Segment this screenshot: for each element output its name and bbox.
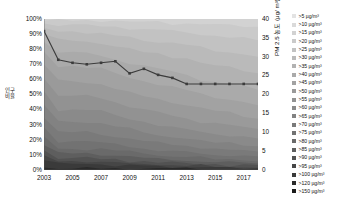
legend-swatch-icon [292,73,296,77]
legend-swatch-icon [292,14,296,18]
legend-item[interactable]: >40 µg/m³ [292,70,341,78]
y-tick-label-left: 80% [29,46,42,52]
legend-swatch-icon [292,148,296,152]
legend-swatch-icon [292,48,296,52]
legend-swatch-icon [292,64,296,68]
legend-item-label: >5 µg/m³ [299,14,319,19]
x-tick-label: 2009 [122,174,136,181]
x-tick-label: 2011 [151,174,165,181]
legend-item[interactable]: >10 µg/m³ [292,20,341,28]
y-tick-label-left: 60% [29,76,42,82]
legend-swatch-icon [292,81,296,85]
legend-swatch-icon [292,31,296,35]
legend-item[interactable]: >30 µg/m³ [292,54,341,62]
legend-item-label: >70 µg/m³ [299,122,322,127]
legend-swatch-icon [292,23,296,27]
legend-item-label: >50 µg/m³ [299,89,322,94]
y-tick-label-right: 20 [262,91,269,97]
legend-swatch-icon [292,123,296,127]
y-tick-label-right: 10 [262,129,269,135]
pm25-trend-marker [185,83,188,86]
legend-item[interactable]: >55 µg/m³ [292,95,341,103]
legend-item[interactable]: >50 µg/m³ [292,87,341,95]
legend-item-label: >120 µg/m³ [299,181,325,186]
legend-item[interactable]: >5 µg/m³ [292,12,341,20]
legend-item-label: >60 µg/m³ [299,105,322,110]
x-axis: 20032005200720092011201320152017 [44,174,258,190]
y-tick-label-left: 70% [29,61,42,67]
legend-item[interactable]: >15 µg/m³ [292,29,341,37]
y-tick-label-left: 50% [29,91,42,97]
legend-item-label: >85 µg/m³ [299,147,322,152]
plot-area [44,19,258,170]
y-tick-label-left: 0% [33,167,42,173]
legend-item[interactable]: >25 µg/m³ [292,45,341,53]
y-tick-label-right: 25 [262,72,269,78]
legend-swatch-icon [292,139,296,143]
legend-swatch-icon [292,181,296,185]
x-tick-label: 2017 [237,174,251,181]
legend-swatch-icon [292,56,296,60]
y-tick-label-left: 40% [29,106,42,112]
y-tick-label-right: 40 [262,16,269,22]
legend-item-label: >90 µg/m³ [299,155,322,160]
legend-swatch-icon [292,114,296,118]
y-tick-label-left: 90% [29,31,42,37]
legend-item[interactable]: >35 µg/m³ [292,62,341,70]
pm25-trend-marker [128,72,131,75]
x-tick-label: 2013 [180,174,194,181]
pm25-trend-marker [171,77,174,80]
y-axis-right-title: PM 2.5 농도 (μg/ m³) [272,0,281,56]
legend-swatch-icon [292,89,296,93]
legend-item[interactable]: >60 µg/m³ [292,104,341,112]
y-tick-label-left: 100% [26,16,42,22]
legend-item[interactable]: >95 µg/m³ [292,162,341,170]
legend-item[interactable]: >120 µg/m³ [292,179,341,187]
legend-swatch-icon [292,39,296,43]
legend-item[interactable]: >80 µg/m³ [292,137,341,145]
x-tick-label: 2003 [37,174,51,181]
legend-item-label: >65 µg/m³ [299,114,322,119]
legend-swatch-icon [292,173,296,177]
legend-item[interactable]: >70 µg/m³ [292,120,341,128]
legend-item-label: >35 µg/m³ [299,64,322,69]
legend-swatch-icon [292,156,296,160]
legend-item-label: >30 µg/m³ [299,55,322,60]
legend-item[interactable]: >85 µg/m³ [292,146,341,154]
pm25-trend-marker [157,74,160,77]
legend-item-label: >75 µg/m³ [299,130,322,135]
pm25-trend-marker [100,61,103,64]
legend-item[interactable]: >150 µg/m³ [292,187,341,195]
legend-item-label: >80 µg/m³ [299,139,322,144]
chart-figure: 인구 비율 0%10%20%30%40%50%60%70%80%90%100% … [0,0,341,209]
pm25-trend-marker [228,83,231,86]
y-tick-label-left: 10% [29,152,42,158]
legend-item-label: >10 µg/m³ [299,22,322,27]
pm25-trend-marker [143,68,146,71]
legend-item-label: >100 µg/m³ [299,172,325,177]
x-tick-label: 2015 [208,174,222,181]
chart-legend: >5 µg/m³>10 µg/m³>15 µg/m³>20 µg/m³>25 µ… [292,12,341,196]
x-tick-label: 2005 [65,174,79,181]
y-axis-left-title: 인구 비율 [4,88,16,99]
legend-swatch-icon [292,164,296,168]
y-axis-left-title-text: 인구 비율 [4,88,16,99]
legend-item-label: >95 µg/m³ [299,164,322,169]
legend-swatch-icon [292,98,296,102]
legend-item[interactable]: >90 µg/m³ [292,154,341,162]
y-tick-label-right: 35 [262,35,269,41]
legend-item[interactable]: >100 µg/m³ [292,171,341,179]
pm25-trend-marker [200,83,203,86]
pm25-trend-marker [57,58,60,61]
legend-item[interactable]: >45 µg/m³ [292,79,341,87]
y-tick-label-right: 15 [262,110,269,116]
plot-svg [44,19,258,170]
legend-item[interactable]: >65 µg/m³ [292,112,341,120]
legend-item[interactable]: >75 µg/m³ [292,129,341,137]
legend-item[interactable]: >20 µg/m³ [292,37,341,45]
y-tick-label-left: 20% [29,137,42,143]
y-tick-label-right: 30 [262,54,269,60]
legend-item-label: >150 µg/m³ [299,189,325,194]
legend-item-label: >15 µg/m³ [299,30,322,35]
pm25-trend-marker [86,63,89,66]
